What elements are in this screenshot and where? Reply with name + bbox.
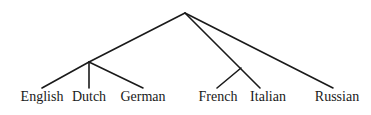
edge-romance-french bbox=[217, 68, 241, 88]
edge-root-russian bbox=[185, 13, 333, 88]
leaf-label-italian: Italian bbox=[250, 89, 286, 105]
leaf-label-dutch: Dutch bbox=[72, 89, 106, 105]
edge-root-italian bbox=[185, 13, 260, 88]
leaf-label-english: English bbox=[21, 89, 64, 105]
leaf-label-french: French bbox=[199, 89, 238, 105]
tree-edges bbox=[42, 13, 333, 88]
leaf-label-russian: Russian bbox=[315, 89, 359, 105]
edge-germanic-german bbox=[89, 62, 143, 88]
edge-root-germanic bbox=[89, 13, 185, 62]
leaf-label-german: German bbox=[120, 89, 165, 105]
edge-germanic-english bbox=[42, 62, 89, 88]
